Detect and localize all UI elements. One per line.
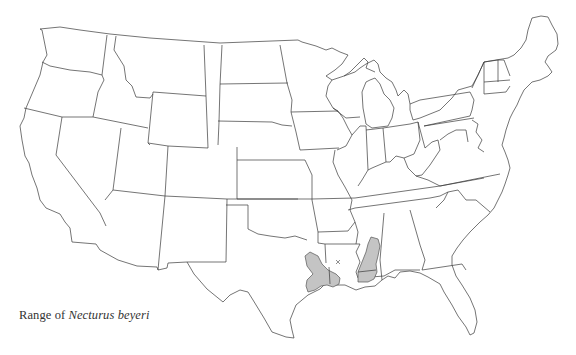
map-caption: Range of Necturus beyeri: [19, 308, 150, 323]
us-range-map: [0, 0, 576, 355]
caption-species: Necturus beyeri: [69, 308, 150, 322]
caption-prefix: Range of: [19, 308, 69, 322]
us-outline: [20, 16, 558, 338]
